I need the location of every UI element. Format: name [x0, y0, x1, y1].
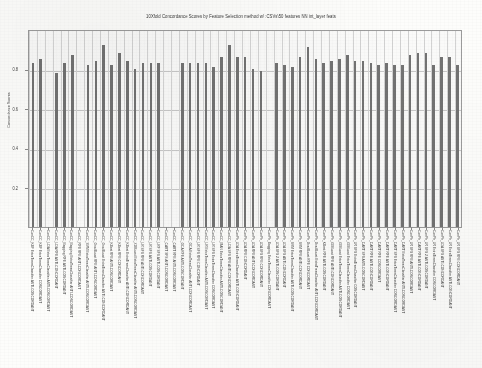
x-tick-label: ConCC_LDA SFS RFE ANTI-CONCORDANT — [227, 230, 232, 296]
x-label-slot: ConPh_XGBoost ExtraTreesClassifier ANTI-… — [336, 230, 344, 362]
x-tick-label: ConPh_CART SFS ExtraTreesClassifier CONC… — [392, 230, 397, 312]
bar — [354, 61, 357, 227]
x-label-slot: ConCC_GCA RFE ANTI-CONCORDANT — [178, 230, 186, 362]
x-label-slot: ConPh_CART SFS ANTI-CONCORDANT — [359, 230, 367, 362]
x-tick-label: ConCC_LRF SFS ANTI-CONCORDANT — [156, 230, 161, 289]
x-tick-label: ConPh_XGBoost ExtraTreesClassifier ANTI-… — [337, 230, 342, 318]
x-tick-label: ConPh_CART RFE CONCORDANT — [377, 230, 382, 282]
x-tick-label: ConPh_LDA SFS ANTI-CONCORDANT — [440, 230, 445, 288]
bar-slot — [375, 31, 383, 227]
bar-slot — [29, 31, 37, 227]
bar-slot — [37, 31, 45, 227]
bar — [55, 73, 58, 227]
x-tick-label: ConCC_LR SFS RFE CONCORDANT — [195, 230, 200, 286]
bar-slot — [194, 31, 202, 227]
y-tick-label: 0.6 — [0, 106, 18, 112]
bar — [440, 57, 443, 227]
x-label-slot: ConPh_LDA SFS ANTI-CONCORDANT — [281, 230, 289, 362]
x-label-slot: ConPh_LR SFS RFE ANTI-CONCORDANT — [407, 230, 415, 362]
x-label-slot: ConCC_KBF ExtraTreesClassifier ANTI-CONC… — [28, 230, 36, 362]
bar-slot — [312, 31, 320, 227]
bar-slot — [225, 31, 233, 227]
x-tick-label: ConCC_CART RFE ANTI-CONCORDANT — [171, 230, 176, 291]
x-tick-label: ConCC_GradBoost ExtraTreesClassifier ANT… — [100, 230, 105, 321]
x-tick-label: ConPh_LR SFS ExtraTreesClassifier CONCOR… — [353, 230, 358, 308]
bar-slot — [186, 31, 194, 227]
x-label-slot: ConCC_Bagging ExtraTreesClassifier ANTI-… — [67, 230, 75, 362]
x-tick-label: ConCC_LR SFS ExtraTreesClassifier CONCOR… — [211, 230, 216, 308]
bar — [197, 63, 200, 227]
x-label-slot: ConCC_XGBoost ExtraTreesClassifier ANTI-… — [131, 230, 139, 362]
bar-slot — [265, 31, 273, 227]
bar — [39, 59, 42, 227]
x-axis-tick-labels: ConCC_KBF ExtraTreesClassifier ANTI-CONC… — [28, 230, 462, 362]
x-tick-label: ConPh_Bagging ExtraTreesClassifier CONCO… — [266, 230, 271, 308]
x-tick-label: ConPh_SVM ExtraTreesClassifier ANTI-CONC… — [290, 230, 295, 312]
x-label-slot: ConCC_KBF ExtraTreesClassifier CONCORDAN… — [36, 230, 44, 362]
x-label-slot: ConPh_LR SFS 2 ANTI-CONCORDANT — [423, 230, 431, 362]
x-label-slot: ConPh_SVM ExtraTreesClassifier ANTI-CONC… — [288, 230, 296, 362]
bar — [283, 65, 286, 227]
bar — [401, 65, 404, 227]
x-tick-label: ConCC_LR SFS ANTI-CONCORDANT — [148, 230, 153, 287]
x-tick-label: ConCC_GradBoost RFE ANTI-CONCORDANT — [92, 230, 97, 298]
bar-slot — [147, 31, 155, 227]
x-label-slot: ConPh_LDA ExtraTreesClassifier ANTI-CONC… — [233, 230, 241, 362]
bar-slot — [398, 31, 406, 227]
bar — [95, 61, 98, 227]
x-label-slot: ConCC_LR ExtraTreesClassifier ANTI-CONCO… — [202, 230, 210, 362]
x-label-slot: ConPh_LDA SFS RFE CONCORDANT — [257, 230, 265, 362]
bar — [142, 63, 145, 227]
x-tick-label: ConPh_CART SFS ANTI-CONCORDANT — [361, 230, 366, 290]
bar-slot — [84, 31, 92, 227]
x-tick-label: ConCC_LR SFS RFE ANTI-CONCORDANT — [140, 230, 145, 294]
bar-slot — [320, 31, 328, 227]
x-tick-label: ConPh_LDA RFE ANTI-CONCORDANT — [250, 230, 255, 288]
bar-slot — [131, 31, 139, 227]
x-tick-label: ConPh_GradBoost ExtraTreesClassifier ANT… — [313, 230, 318, 320]
x-label-slot: ConCC_LR SFS RFE ANTI-CONCORDANT — [138, 230, 146, 362]
x-label-slot: ConPh_SVM RFE ANTI-CONCORDANT — [296, 230, 304, 362]
x-label-slot: ConPh_CART RFE ANTI-CONCORDANT — [383, 230, 391, 362]
x-label-slot: ConPh_LDA RFE ANTI-CONCORDANT — [249, 230, 257, 362]
bar — [291, 67, 294, 227]
x-label-slot: ConPh_LDA RFE CONCORDANT — [241, 230, 249, 362]
bar-slot — [343, 31, 351, 227]
x-label-slot: ConCC_LR SFS ExtraTreesClassifier CONCOR… — [209, 230, 217, 362]
x-tick-label: ConPh_LDA SFS RFE CONCORDANT — [258, 230, 263, 287]
x-label-slot: ConCC_SVM ExtraTreesClassifier ANTI-CONC… — [83, 230, 91, 362]
x-tick-label: ConCC_MAN ExtraTreesClassifier ANTI-CONC… — [219, 230, 224, 313]
bar-slot — [139, 31, 147, 227]
chart-title: 10Xfold Concordance Scores by Feature Se… — [0, 13, 482, 19]
bar — [346, 55, 349, 227]
bar — [189, 63, 192, 227]
x-tick-label: ConCC_GCA ExtraTreesClassifier ANTI-CONC… — [187, 230, 192, 312]
x-label-slot: ConPh_XGBoost RFE ANTI-CONCORDANT — [328, 230, 336, 362]
x-label-slot: ConPh_LDA SFS 2 ANTI-CONCORDANT — [273, 230, 281, 362]
x-tick-label: ConPh_LDA RFE CONCORDANT — [242, 230, 247, 280]
bar — [244, 57, 247, 227]
x-tick-label: ConPh_LR SFS RFE CONCORDANT — [455, 230, 460, 285]
bar-slot — [257, 31, 265, 227]
x-label-slot: ConCC_KBest RFE CONCORDANT — [115, 230, 123, 362]
bar — [220, 57, 223, 227]
x-label-slot: ConPh_LDA SFS ANTI-CONCORDANT — [438, 230, 446, 362]
bar-slot — [406, 31, 414, 227]
bar — [330, 61, 333, 227]
x-label-slot: ConCC_KBest RFE ANTI-CONCORDANT — [107, 230, 115, 362]
bar — [362, 61, 365, 227]
x-label-slot: ConPh_XGBoost ExtraTreesClassifier CONCO… — [344, 230, 352, 362]
x-label-slot: ConCC_KBest ExtraTreesClassifier ANTI-CO… — [123, 230, 131, 362]
bar-slot — [430, 31, 438, 227]
x-label-slot: ConCC_LDA SFS RFE ANTI-CONCORDANT — [225, 230, 233, 362]
bar — [63, 63, 66, 227]
bar — [126, 61, 129, 227]
bar-slot — [288, 31, 296, 227]
x-label-slot: ConPh_CART RFE ANTI-CONCORDANT — [367, 230, 375, 362]
x-tick-label: ConCC_KBest RFE ANTI-CONCORDANT — [108, 230, 113, 291]
bar — [417, 53, 420, 227]
x-tick-label: ConPh_CART ExtraTreesClassifier ANTI-CON… — [400, 230, 405, 313]
x-label-slot: ConPh_CART ExtraTreesClassifier ANTI-CON… — [399, 230, 407, 362]
bar — [228, 45, 231, 227]
bar — [425, 53, 428, 227]
